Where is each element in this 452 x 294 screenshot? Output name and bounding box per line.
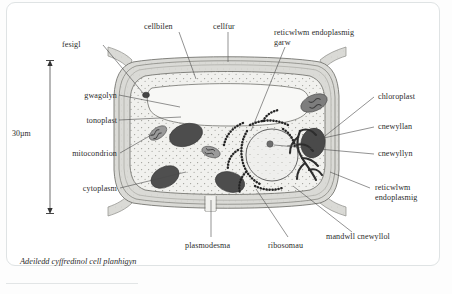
label-smooth-er-line1: reticwlwm [375, 183, 411, 193]
label-smooth-er-line2: endoplasmig [375, 193, 417, 203]
label-mitocondrion: mitocondrion [53, 149, 117, 159]
vesicle-fesigl [143, 92, 150, 98]
plasmodesma-channel [205, 196, 216, 211]
label-rough-er-line1: reticwlwm endoplasmig [274, 28, 354, 38]
label-fesigl: fesigl [62, 40, 81, 50]
label-tonoplast: tonoplast [68, 116, 117, 126]
scale-bar-label: 30µm [12, 129, 31, 138]
label-plasmodesma: plasmodesma [185, 241, 230, 251]
diagram-caption: Adeiledd cyffredinol cell planhigyn [20, 257, 137, 266]
label-rough-er-line2: garw [274, 38, 291, 48]
label-chloroplast: chloroplast [378, 92, 415, 102]
label-ribosomau: ribosomau [268, 241, 303, 251]
screenshot-root: 30µm fesigl cellbilen cellfur reticwlwm … [0, 0, 452, 294]
scale-bar [46, 60, 54, 214]
label-cellfur: cellfur [213, 22, 235, 32]
nucleus [246, 129, 298, 181]
label-cnewyllan: cnewyllan [378, 122, 412, 132]
label-gwagolyn: gwagolyn [68, 91, 117, 101]
label-cellbilen: cellbilen [144, 22, 173, 32]
nucleolus-cnewyllyn [267, 141, 273, 147]
label-cytoplasm: cytoplasm [64, 184, 117, 194]
vacuole [147, 84, 309, 126]
label-cnewyllyn: cnewyllyn [378, 149, 413, 159]
label-mandwll-cnewyllol: mandwll cnewyllol [326, 232, 390, 242]
